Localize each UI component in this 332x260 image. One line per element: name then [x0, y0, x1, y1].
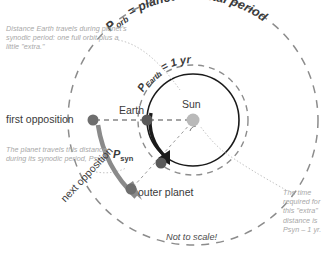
earth-orbit-text: = 1 yr: [155, 53, 192, 75]
synodic-subscript: syn: [120, 154, 133, 163]
earth-dot-next-opposition: [156, 158, 167, 169]
leader-right: [200, 126, 286, 190]
annotation-earth-extra-distance: Distance Earth travels during planet's s…: [6, 24, 128, 52]
planet-orbit-text: = planet's orbital period: [122, 0, 270, 24]
label-first-opposition: first opposition: [6, 113, 74, 125]
earth-orbit-label: PEarth = 1 yr: [135, 53, 192, 94]
label-outer-planet: outer planet: [138, 186, 193, 198]
label-earth: Earth: [119, 104, 144, 116]
earth-dot-first-opposition: [142, 115, 153, 126]
annotation-extra-time: The time required for this "extra" dista…: [283, 188, 332, 234]
outer-planet-dot-first-opposition: [88, 115, 99, 126]
diagram-canvas: Porb = planet's orbital period PEarth = …: [0, 0, 332, 260]
angle-tick-inner: [190, 126, 196, 131]
synodic-period-label: Psyn: [113, 148, 134, 163]
label-not-to-scale: Not to scale!: [166, 232, 217, 242]
outer-planet-dot-next-opposition: [126, 184, 137, 195]
label-sun: Sun: [182, 98, 201, 110]
sun-dot: [187, 114, 200, 127]
